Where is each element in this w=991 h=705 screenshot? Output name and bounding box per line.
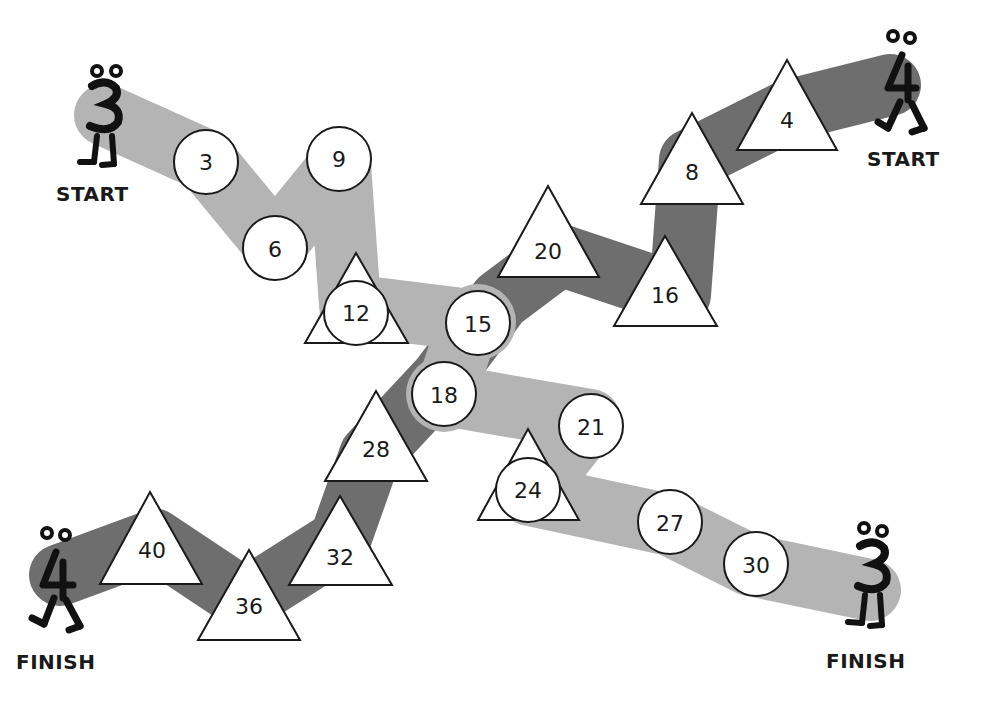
svg-text:8: 8 <box>685 160 699 185</box>
circle-space-3[interactable]: 3 <box>174 130 238 194</box>
circle-space-15[interactable]: 15 <box>446 291 510 355</box>
circle-space-12[interactable]: 12 <box>324 281 388 345</box>
svg-text:9: 9 <box>332 147 346 172</box>
svg-text:18: 18 <box>430 383 458 408</box>
circle-space-24[interactable]: 24 <box>496 458 560 522</box>
svg-text:32: 32 <box>326 545 354 570</box>
game-board: 4 8 20 16 28 32 36 40 3 6 9 <box>0 0 991 705</box>
svg-text:24: 24 <box>514 478 542 503</box>
circle-space-27[interactable]: 27 <box>638 490 702 554</box>
svg-text:36: 36 <box>235 594 263 619</box>
svg-text:20: 20 <box>534 239 562 264</box>
svg-text:21: 21 <box>577 415 605 440</box>
svg-text:15: 15 <box>464 312 492 337</box>
svg-text:6: 6 <box>268 237 282 262</box>
finish-label-threes: FINISH <box>826 649 905 673</box>
circle-space-21[interactable]: 21 <box>559 394 623 458</box>
svg-text:30: 30 <box>742 553 770 578</box>
circle-space-18[interactable]: 18 <box>412 362 476 426</box>
svg-text:16: 16 <box>651 283 679 308</box>
circle-space-30[interactable]: 30 <box>724 532 788 596</box>
svg-text:4: 4 <box>780 108 794 133</box>
svg-text:40: 40 <box>138 538 166 563</box>
start-label-threes: START <box>56 182 129 206</box>
svg-text:3: 3 <box>199 150 213 175</box>
finish-label-fours: FINISH <box>16 650 95 674</box>
svg-text:27: 27 <box>656 511 684 536</box>
svg-text:12: 12 <box>342 301 370 326</box>
circle-space-9[interactable]: 9 <box>307 127 371 191</box>
circle-space-6[interactable]: 6 <box>243 216 307 280</box>
start-label-fours: START <box>867 147 940 171</box>
svg-text:28: 28 <box>362 437 390 462</box>
